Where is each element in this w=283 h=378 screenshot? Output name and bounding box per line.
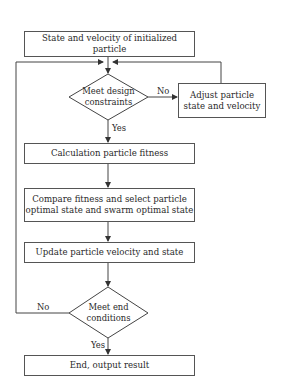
node-constraints: Meet design constraints [69, 84, 148, 110]
node-adjust-line2: state and velocity [184, 101, 261, 112]
node-update: Update particle velocity and state [24, 242, 195, 263]
node-constraints-line2: constraints [85, 97, 133, 108]
node-adjust-line1: Adjust particle [190, 90, 254, 101]
node-fitness-label: Calculation particle fitness [51, 148, 168, 159]
node-constraints-line1: Meet design [82, 86, 135, 97]
node-end: End, output result [24, 355, 195, 376]
edge-constraints-no-label: No [157, 86, 169, 96]
node-fitness: Calculation particle fitness [24, 143, 195, 164]
node-compare-line2: optimal state and swarm optimal state [26, 205, 194, 216]
node-compare: Compare fitness and select particle opti… [24, 188, 195, 222]
node-update-label: Update particle velocity and state [36, 247, 184, 258]
edge-constraints-yes-label: Yes [112, 123, 126, 133]
node-init-label: State and velocity of initialized partic… [25, 33, 194, 55]
node-compare-line1: Compare fitness and select particle [32, 194, 187, 205]
node-end-label: End, output result [70, 360, 150, 371]
edge-end-no-label: No [37, 302, 49, 312]
edge-end-yes-label: Yes [91, 340, 105, 350]
node-init: State and velocity of initialized partic… [24, 31, 195, 57]
node-end-check-line1: Meet end [88, 302, 128, 313]
node-end-check-line2: conditions [87, 313, 131, 324]
node-end-check: Meet end conditions [69, 300, 148, 326]
node-adjust: Adjust particle state and velocity [178, 83, 266, 118]
